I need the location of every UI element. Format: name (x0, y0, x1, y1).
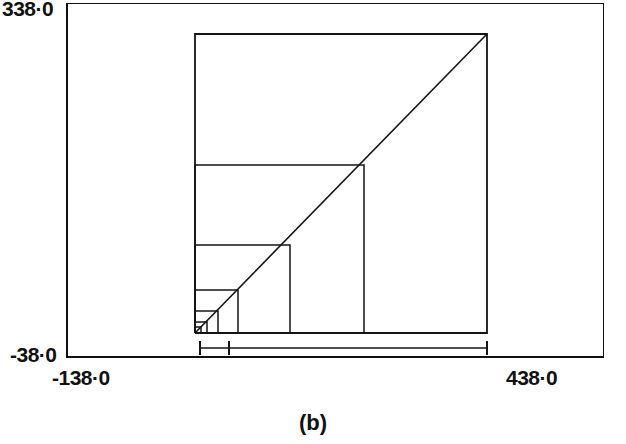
figure-caption: (b) (0, 410, 626, 436)
x-axis-max-label: 438·0 (506, 367, 557, 388)
x-axis-min-label: -138·0 (52, 367, 110, 388)
y-axis-min-label: -38·0 (10, 344, 57, 365)
plot-frame (66, 3, 604, 358)
figure-container: 338·0 -38·0 -138·0 438·0 (b) (0, 0, 626, 444)
y-axis-max-label: 338·0 (2, 0, 53, 19)
